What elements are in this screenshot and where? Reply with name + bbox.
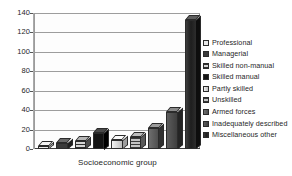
bar <box>93 133 104 150</box>
y-axis: 140120100806040200 <box>0 0 30 176</box>
bar <box>111 140 122 149</box>
legend-item-label: Unskilled <box>212 96 242 104</box>
bar-side-face <box>159 123 164 149</box>
legend-item-label: Partly skilled <box>212 85 253 93</box>
bar-chart: 140120100806040200 Socioeconomic group P… <box>0 0 292 176</box>
y-axis-tick-label: 140 <box>2 9 30 17</box>
bar <box>130 137 141 149</box>
legend-item: Skilled non-manual <box>203 60 292 71</box>
plot-area <box>35 13 200 149</box>
bar-front-face <box>38 146 49 149</box>
legend-item: Inadequately described <box>203 118 292 129</box>
legend-item-label: Professional <box>212 39 252 47</box>
legend-item-label: Skilled non-manual <box>212 62 274 70</box>
bar <box>75 141 86 149</box>
y-axis-tick-label: 120 <box>2 28 30 36</box>
legend-item: Skilled manual <box>203 72 292 83</box>
bar-front-face <box>56 143 67 149</box>
y-axis-tick-label: 20 <box>2 126 30 134</box>
bar-front-face <box>148 128 159 149</box>
bar-side-face <box>196 16 201 149</box>
legend-swatch <box>203 109 209 115</box>
legend-item-label: Armed forces <box>212 108 255 116</box>
legend-item-label: Inadequately described <box>212 120 287 128</box>
y-axis-tick-label: 80 <box>2 67 30 75</box>
y-axis-tick-label: 100 <box>2 48 30 56</box>
bar <box>166 112 177 149</box>
bar <box>56 143 67 149</box>
legend: ProfessionalManagerialSkilled non-manual… <box>203 37 292 141</box>
bar <box>38 146 49 149</box>
legend-swatch <box>203 74 209 80</box>
y-axis-tick-label: 40 <box>2 106 30 114</box>
legend-item-label: Managerial <box>212 50 248 58</box>
legend-swatch <box>203 63 209 69</box>
y-axis-tick-label: 60 <box>2 87 30 95</box>
legend-item: Armed forces <box>203 107 292 118</box>
bar-front-face <box>130 137 141 149</box>
bars <box>35 13 200 149</box>
x-axis-label: Socioeconomic group <box>35 158 200 167</box>
legend-swatch <box>203 132 209 138</box>
legend-swatch <box>203 97 209 103</box>
bar-side-face <box>178 108 183 149</box>
bar-front-face <box>75 141 86 149</box>
plot-floor <box>35 149 200 156</box>
legend-swatch <box>203 40 209 46</box>
y-axis-tick-mark <box>30 149 33 150</box>
bar <box>148 128 159 149</box>
legend-item: Partly skilled <box>203 83 292 94</box>
legend-item: Miscellaneous other <box>203 130 292 141</box>
bar-front-face <box>166 112 177 149</box>
legend-item: Professional <box>203 37 292 48</box>
legend-item-label: Skilled manual <box>212 73 259 81</box>
legend-swatch <box>203 86 209 92</box>
legend-item-label: Miscellaneous other <box>212 131 277 139</box>
y-axis-tick-label: 0 <box>2 145 30 153</box>
bar-front-face <box>111 140 122 149</box>
legend-item: Managerial <box>203 49 292 60</box>
bar <box>185 20 196 149</box>
bar-front-face <box>185 20 196 149</box>
bar-front-face <box>93 133 104 150</box>
legend-swatch <box>203 51 209 57</box>
legend-item: Unskilled <box>203 95 292 106</box>
legend-swatch <box>203 121 209 127</box>
